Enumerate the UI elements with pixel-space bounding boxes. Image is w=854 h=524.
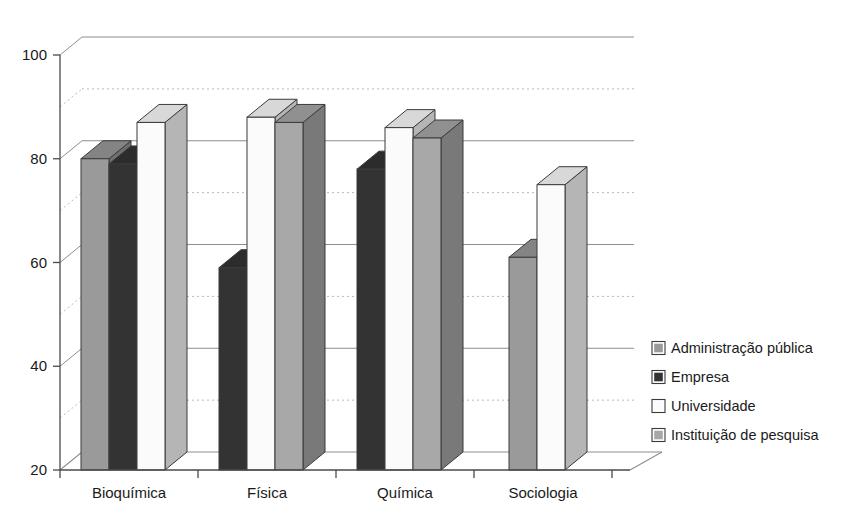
legend-swatch-fill	[654, 402, 663, 411]
gridline-depth	[60, 89, 82, 107]
floor-right-edge	[630, 452, 662, 470]
bar-side-face	[165, 104, 187, 470]
legend-item: Universidade	[652, 398, 756, 414]
chart-container: 20406080100 BioquímicaFísicaQuímicaSocio…	[0, 0, 854, 524]
bar-front-face	[137, 122, 165, 470]
legend-item: Administração pública	[652, 340, 814, 356]
legend-swatch-fill	[654, 373, 663, 382]
gridline-depth	[60, 141, 82, 159]
legend-swatch-fill	[654, 344, 663, 353]
x-tick-label: Física	[247, 484, 288, 501]
bar-side-face	[303, 104, 325, 470]
gridline-depth	[60, 37, 82, 55]
bars-group	[81, 99, 587, 470]
bar-front-face	[109, 164, 137, 470]
gridline-depth	[60, 348, 82, 366]
y-tick-label: 60	[30, 254, 47, 271]
bar-front-face	[413, 138, 441, 470]
legend-label: Universidade	[671, 398, 756, 414]
x-tick-label: Bioquímica	[92, 484, 167, 501]
gridline-depth	[60, 193, 82, 211]
bar-chart: 20406080100 BioquímicaFísicaQuímicaSocio…	[0, 0, 854, 524]
bar-side-face	[441, 120, 463, 470]
legend-item: Instituição de pesquisa	[652, 427, 819, 443]
x-axis-labels: BioquímicaFísicaQuímicaSociologia	[92, 484, 578, 501]
bar-side-face	[565, 167, 587, 470]
bar-front-face	[247, 117, 275, 470]
chart-legend: Administração públicaEmpresaUniversidade…	[652, 340, 819, 443]
legend-label: Instituição de pesquisa	[671, 427, 819, 443]
bar-front-face	[357, 169, 385, 470]
bar-front-face	[275, 122, 303, 470]
bar-0-2	[137, 104, 187, 470]
legend-label: Empresa	[671, 369, 730, 385]
bar-3-2	[537, 167, 587, 470]
gridline-depth	[60, 245, 82, 263]
bar-2-3	[413, 120, 463, 470]
gridline-depth	[60, 400, 82, 418]
bar-front-face	[81, 159, 109, 470]
y-tick-label: 20	[30, 461, 47, 478]
legend-label: Administração pública	[671, 340, 814, 356]
x-tick-label: Sociologia	[508, 484, 578, 501]
bar-1-3	[275, 104, 325, 470]
y-axis-labels: 20406080100	[22, 46, 47, 478]
bar-front-face	[219, 268, 247, 470]
gridline-depth	[60, 296, 82, 314]
y-tick-label: 40	[30, 357, 47, 374]
legend-item: Empresa	[652, 369, 730, 385]
bar-front-face	[537, 185, 565, 470]
y-tick-label: 100	[22, 46, 47, 63]
bar-front-face	[509, 257, 537, 470]
bar-front-face	[385, 128, 413, 470]
y-tick-label: 80	[30, 150, 47, 167]
x-tick-label: Química	[377, 484, 434, 501]
legend-swatch-fill	[654, 431, 663, 440]
